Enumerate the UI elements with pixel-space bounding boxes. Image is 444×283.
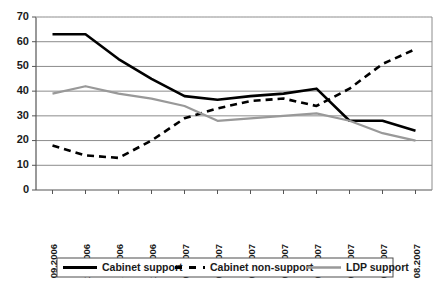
y-axis-tick-label: 50: [17, 59, 29, 71]
y-axis-tick-label: 20: [17, 133, 29, 145]
x-axis-tick-label: 08.2007: [411, 244, 422, 278]
y-axis-tick-labels: 010203040506070: [17, 10, 29, 195]
y-axis-tick-label: 70: [17, 10, 29, 22]
y-axis-tick-label: 30: [17, 109, 29, 121]
y-axis-tick-label: 10: [17, 158, 29, 170]
y-axis-tick-label: 60: [17, 35, 29, 47]
series-line-2: [53, 86, 416, 140]
data-series-layer: [53, 34, 416, 158]
grid-lines: [32, 17, 432, 190]
legend-label-1: Cabinet non-support: [210, 261, 314, 273]
chart-container: 010203040506070 09.200610.200611.200612.…: [0, 0, 444, 283]
y-axis-tick-label: 0: [23, 183, 29, 195]
chart-legend: Cabinet supportCabinet non-supportLDP su…: [57, 258, 409, 277]
series-line-1: [53, 49, 416, 158]
line-chart: 010203040506070 09.200610.200611.200612.…: [0, 0, 444, 283]
legend-label-0: Cabinet support: [102, 261, 183, 273]
legend-label-2: LDP support: [346, 261, 409, 273]
y-axis-tick-label: 40: [17, 84, 29, 96]
